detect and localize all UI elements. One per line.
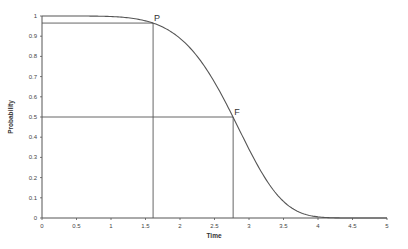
y-tick-label: 0	[34, 215, 38, 221]
x-tick-label: 1.5	[141, 223, 150, 229]
y-tick-label: 0.3	[29, 154, 38, 160]
y-tick-label: 0.7	[29, 74, 38, 80]
x-tick-label: 4.5	[348, 223, 357, 229]
x-tick-label: 3	[247, 223, 251, 229]
y-tick-label: 0.2	[29, 175, 38, 181]
y-axis-ticks: 00.10.20.30.40.50.60.70.80.91	[29, 13, 42, 221]
y-tick-label: 0.6	[29, 94, 38, 100]
y-tick-label: 0.9	[29, 33, 38, 39]
y-tick-label: 0.8	[29, 53, 38, 59]
x-axis-ticks: 00.511.522.533.544.55	[40, 218, 389, 229]
x-tick-label: 3.5	[279, 223, 288, 229]
x-tick-label: 2.5	[210, 223, 219, 229]
x-tick-label: 2	[178, 223, 182, 229]
point-label-f: F	[234, 107, 240, 117]
x-tick-label: 4	[316, 223, 320, 229]
y-tick-label: 0.4	[29, 134, 38, 140]
y-tick-label: 0.5	[29, 114, 38, 120]
x-axis-title: Time	[206, 232, 221, 239]
y-tick-label: 1	[34, 13, 38, 19]
reliability-chart: 00.10.20.30.40.50.60.70.80.91 00.511.522…	[0, 0, 408, 249]
guide-lines	[42, 23, 233, 218]
point-label-p: P	[154, 13, 160, 23]
x-tick-label: 0	[40, 223, 44, 229]
x-tick-label: 1	[109, 223, 113, 229]
point-annotations: PF	[154, 13, 240, 117]
x-tick-label: 0.5	[72, 223, 81, 229]
x-tick-label: 5	[385, 223, 389, 229]
y-tick-label: 0.1	[29, 195, 38, 201]
y-axis-title: Probability	[7, 100, 15, 134]
